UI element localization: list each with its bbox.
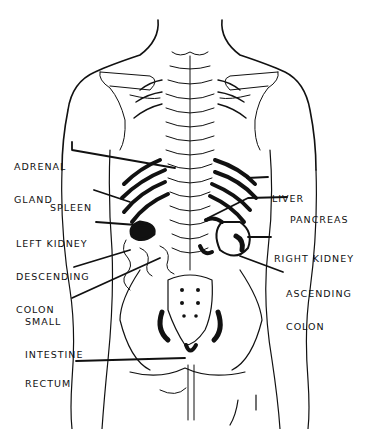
- label-left-kidney-text: LEFT KIDNEY: [16, 238, 88, 249]
- label-ascending-colon-line2: COLON: [286, 321, 352, 332]
- label-rectum: RECTUM: [25, 356, 71, 411]
- label-right-kidney-text: RIGHT KIDNEY: [274, 253, 354, 264]
- label-ascending-colon: ASCENDING COLON: [286, 266, 352, 354]
- anatomy-diagram: ADRENAL GLAND SPLEEN LEFT KIDNEY DESCEND…: [0, 0, 370, 429]
- label-pancreas-text: PANCREAS: [290, 214, 349, 225]
- label-descending-colon-line1: DESCENDING: [16, 271, 90, 282]
- label-spleen-text: SPLEEN: [50, 202, 92, 213]
- label-ascending-colon-line1: ASCENDING: [286, 288, 352, 299]
- label-rectum-text: RECTUM: [25, 378, 71, 389]
- label-adrenal-gland-line1: ADRENAL: [14, 161, 66, 172]
- label-small-intestine-line1: SMALL: [25, 316, 83, 327]
